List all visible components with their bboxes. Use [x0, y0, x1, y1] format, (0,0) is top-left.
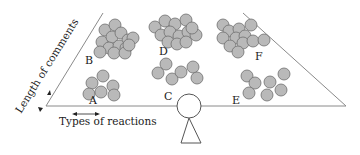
fulcrum-circle — [177, 94, 201, 118]
cluster-circle — [264, 76, 276, 88]
cluster-circle — [180, 36, 192, 48]
cluster-d: D — [149, 14, 202, 58]
fulcrum-stand-triangle — [181, 118, 201, 143]
cluster-circle — [152, 67, 164, 79]
cluster-b: B — [85, 19, 139, 67]
cluster-circle — [275, 84, 287, 96]
cluster-circle — [191, 72, 203, 84]
cluster-label-d: D — [159, 45, 168, 58]
cluster-circle — [186, 22, 198, 34]
seesaw-diagram: Length of comments Types of reactions AB… — [0, 0, 360, 155]
cluster-circle — [247, 35, 259, 47]
cluster-label-a: A — [88, 94, 98, 107]
cluster-circle — [123, 39, 135, 51]
cluster-circle — [108, 47, 120, 59]
length-arrow-up-icon — [47, 90, 51, 95]
cluster-circle — [261, 89, 273, 101]
cluster-label-c: C — [164, 90, 172, 103]
cluster-circle — [97, 70, 109, 82]
cluster-a: A — [83, 70, 120, 107]
length-arrow-down-icon — [38, 107, 43, 112]
cluster-circle — [86, 77, 98, 89]
cluster-circle — [278, 68, 290, 80]
cluster-f: F — [217, 19, 270, 63]
cluster-circle — [258, 34, 270, 46]
cluster-circle — [175, 66, 187, 78]
cluster-label-e: E — [232, 94, 240, 107]
cluster-circle — [245, 19, 257, 31]
cluster-circle — [232, 46, 244, 58]
cluster-label-f: F — [255, 50, 263, 63]
horizontal-axis-label: Types of reactions — [59, 115, 157, 127]
cluster-label-b: B — [85, 54, 93, 67]
cluster-circle — [187, 61, 199, 73]
cluster-circle — [243, 87, 255, 99]
cluster-e: E — [232, 68, 290, 107]
cluster-circle — [108, 89, 120, 101]
cluster-circle — [94, 46, 106, 58]
